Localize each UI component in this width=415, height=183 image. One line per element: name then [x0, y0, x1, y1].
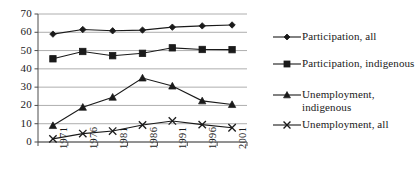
chart-container: 706050403020100 197119761981198619911996…: [0, 0, 415, 183]
legend-label: Participation, indigenous: [302, 57, 414, 70]
legend-label: Unemployment, indigenous: [302, 88, 374, 113]
legend-marker-diamond-icon: [272, 31, 302, 43]
series-3: [49, 117, 236, 142]
legend-item-3[interactable]: Unemployment, all: [272, 118, 389, 131]
data-point-square: [50, 56, 56, 62]
legend-label: Unemployment, all: [302, 118, 389, 131]
legend-item-0[interactable]: Participation, all: [272, 30, 377, 43]
legend-marker-triangle-icon: [272, 89, 302, 101]
data-point-square: [109, 52, 115, 58]
data-point-triangle: [139, 74, 146, 81]
data-point-diamond: [284, 34, 290, 40]
data-point-square: [284, 61, 290, 67]
data-point-diamond: [169, 24, 175, 30]
data-point-triangle: [199, 97, 206, 104]
legend-label: Participation, all: [302, 30, 377, 43]
x-axis-tick-marks: [38, 142, 247, 146]
legend-marker-square-icon: [272, 58, 302, 70]
data-point-diamond: [50, 31, 56, 37]
data-series-layer: [49, 22, 236, 143]
data-point-square: [80, 48, 86, 54]
series-1: [50, 45, 236, 62]
data-point-triangle: [49, 122, 56, 129]
series-2: [49, 74, 236, 128]
legend-item-1[interactable]: Participation, indigenous: [272, 57, 414, 70]
data-point-triangle: [109, 94, 116, 101]
data-point-diamond: [80, 26, 86, 32]
legend-marker-cross-icon: [272, 119, 302, 131]
data-point-square: [169, 45, 175, 51]
legend-item-2[interactable]: Unemployment, indigenous: [272, 88, 374, 113]
y-axis-tick-marks: [35, 14, 39, 142]
data-point-diamond: [109, 28, 115, 34]
series-line: [53, 78, 232, 126]
data-point-square: [199, 46, 205, 52]
data-point-square: [139, 50, 145, 56]
data-point-diamond: [199, 23, 205, 29]
series-0: [50, 22, 236, 38]
data-point-square: [229, 46, 235, 52]
data-point-diamond: [229, 22, 235, 28]
